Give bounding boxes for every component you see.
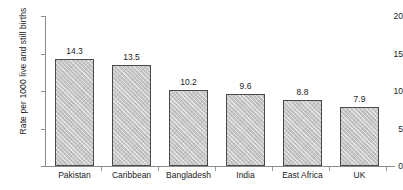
bar-value-label: 8.8 [283, 87, 322, 97]
plot-area: 14.3 13.5 10.2 9.6 8.8 7.9 [45, 16, 395, 166]
bar-chart: Rate per 1000 live and still births 20 1… [0, 0, 403, 190]
x-axis-line [45, 166, 395, 167]
bar[interactable] [112, 65, 151, 166]
bar[interactable] [283, 100, 322, 166]
y-axis-title: Rate per 1000 live and still births [18, 0, 28, 146]
bar-value-label: 14.3 [55, 46, 94, 56]
bar-value-label: 10.2 [169, 77, 208, 87]
bar-value-label: 13.5 [112, 52, 151, 62]
bar[interactable] [226, 94, 265, 166]
bar-value-label: 9.6 [226, 81, 265, 91]
bar[interactable] [169, 90, 208, 167]
x-axis-category-label: UK [320, 170, 399, 180]
bar[interactable] [340, 107, 379, 166]
bar[interactable] [55, 59, 94, 166]
bar-value-label: 7.9 [340, 94, 379, 104]
